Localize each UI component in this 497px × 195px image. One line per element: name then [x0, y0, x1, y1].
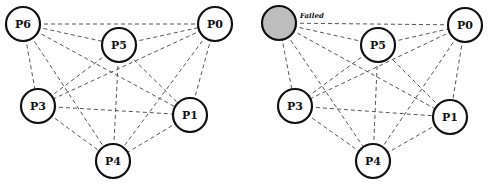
failed-annotation: Failed	[299, 11, 324, 20]
node-label: P3	[30, 100, 46, 113]
node-label: P4	[105, 155, 121, 168]
edge-p6-p0	[279, 23, 465, 25]
panel-after-failure: P5P0P3P1P4Failed	[262, 6, 482, 178]
node-p6-failed	[262, 6, 296, 40]
node-label: P0	[207, 18, 223, 31]
node-label: P1	[442, 111, 458, 124]
node-label: P5	[111, 39, 127, 52]
network-diagram: P6P5P0P3P1P4 P5P0P3P1P4Failed	[0, 0, 497, 195]
node-label: P3	[287, 100, 303, 113]
node-label: P1	[182, 109, 198, 122]
node-label: P6	[15, 18, 31, 31]
edge-p3-p1	[295, 106, 450, 117]
panel-before-failure: P6P5P0P3P1P4	[6, 7, 232, 178]
edge-p3-p1	[38, 106, 190, 115]
node-label: P0	[457, 19, 473, 32]
node-label: P4	[365, 155, 381, 168]
node-label: P5	[370, 39, 386, 52]
